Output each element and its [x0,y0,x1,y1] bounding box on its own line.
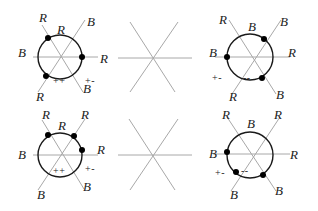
label: R [35,89,44,104]
label: B [18,45,26,60]
label: R [287,45,296,60]
sign-annotation: -- [241,165,249,176]
sign-annotation: -- [243,72,251,83]
label: R [273,107,282,122]
sign-annotation: +- [85,163,95,174]
sign-annotation: +- [215,167,225,178]
node-dot [259,75,265,81]
panel-bottom-right: R B R B R B B +- -- [209,107,298,202]
label: R [41,107,50,122]
label: B [275,183,283,198]
sign-annotation: +- [85,75,95,86]
panel-top-left: R R B B R B R ++ +- [18,10,108,104]
node-dot [45,132,51,138]
label: R [218,12,227,27]
panel-top-middle [118,22,192,92]
node-dot [79,147,85,153]
label: R [57,118,66,133]
label: R [56,22,65,37]
label: B [280,14,288,29]
label: R [38,10,47,25]
node-dot [79,54,85,60]
node-dot [224,149,230,155]
node-dot [224,54,230,60]
label: R [228,89,237,104]
label: R [221,107,230,122]
node-dot [43,73,49,79]
label: R [96,142,105,157]
label: B [247,116,255,131]
label: R [289,147,298,162]
label: B [248,19,256,34]
label: B [87,14,95,29]
label: B [37,187,45,202]
sign-annotation: +- [212,72,222,83]
node-dot [260,172,266,178]
panel-top-right: R B B B R R B +- -- [209,12,296,104]
panel-bottom-middle [118,119,192,190]
label: B [276,87,284,102]
diagram-canvas: R R B B R B R ++ +- R B B B R R B +- -- [0,0,318,211]
label: B [209,45,217,60]
label: B [230,187,238,202]
node-dot [71,133,77,139]
label: B [209,146,217,161]
label: B [18,147,26,162]
panel-bottom-left: R R R B R B B ++ +- [18,107,105,202]
node-dot [233,169,239,175]
node-dot [261,36,267,42]
sign-annotation: ++ [53,165,65,176]
label: R [80,107,89,122]
label: R [99,51,108,66]
node-dot [45,35,51,41]
sign-annotation: ++ [53,75,65,86]
label: B [83,179,91,194]
